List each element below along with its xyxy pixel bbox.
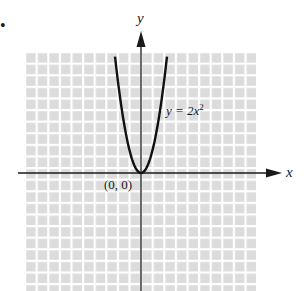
equation-text: y = 2x [166, 103, 199, 118]
y-axis-label: y [137, 11, 144, 26]
origin-label: (0, 0) [104, 178, 132, 191]
x-axis-arrow-icon [266, 169, 282, 178]
parabola-chart [0, 0, 305, 291]
x-axis-label: x [286, 165, 293, 180]
y-axis-arrow-icon [137, 31, 146, 47]
equation-exponent: 2 [199, 102, 204, 112]
equation-label: y = 2x2 [166, 103, 204, 117]
